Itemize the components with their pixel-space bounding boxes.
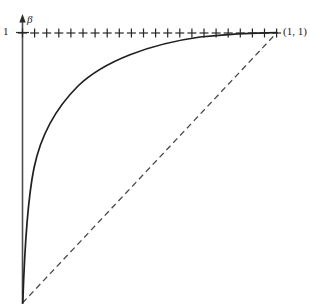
plus-marker <box>54 29 63 38</box>
plus-marker <box>248 29 257 38</box>
plus-marker <box>260 29 269 38</box>
plus-marker <box>103 29 112 38</box>
plus-marker <box>18 29 27 38</box>
plus-marker <box>139 29 148 38</box>
unit-level-marker-row <box>18 29 281 38</box>
plus-marker <box>272 29 281 38</box>
plus-marker <box>236 29 245 38</box>
plus-marker <box>42 29 51 38</box>
plus-marker <box>163 29 172 38</box>
plus-marker <box>30 29 39 38</box>
y-axis-group <box>16 14 29 304</box>
plus-marker <box>91 29 100 38</box>
figure-canvas <box>0 0 310 304</box>
point-label-one-one: (1, 1) <box>283 26 307 37</box>
plus-marker <box>79 29 88 38</box>
y-axis-arrowhead <box>19 14 25 23</box>
figure-root: 1 β (1, 1) <box>0 0 310 304</box>
plus-marker <box>151 29 160 38</box>
plus-marker <box>175 29 184 38</box>
plus-marker <box>224 29 233 38</box>
plus-marker <box>66 29 75 38</box>
plus-marker <box>187 29 196 38</box>
y-axis-label-beta: β <box>27 14 32 25</box>
plus-marker <box>115 29 124 38</box>
y-axis-tick-label-one: 1 <box>3 26 9 37</box>
plus-marker <box>127 29 136 38</box>
diagonal-reference-line <box>23 33 278 304</box>
